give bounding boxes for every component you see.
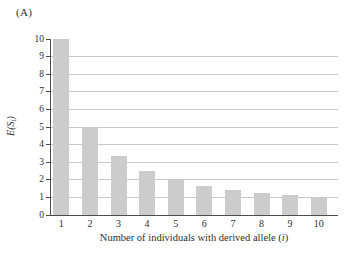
y-tick-7 — [46, 91, 50, 92]
y-tick-label-4: 4 — [22, 139, 44, 150]
y-tick-label-0: 0 — [22, 210, 44, 221]
bar-i1 — [53, 39, 69, 215]
gridline-y7 — [51, 91, 338, 92]
bar-i9 — [282, 195, 298, 215]
panel-label: (A) — [16, 6, 32, 18]
gridline-y9 — [51, 56, 338, 57]
y-tick-3 — [46, 162, 50, 163]
y-tick-label-3: 3 — [22, 157, 44, 168]
y-tick-8 — [46, 74, 50, 75]
bar-i3 — [111, 156, 127, 215]
plot-area: 01234567891012345678910 — [50, 39, 338, 215]
y-axis-title-pre: E(S — [5, 121, 16, 135]
x-tick-label-4: 4 — [133, 218, 161, 229]
y-axis-line — [50, 39, 51, 215]
x-tick-label-6: 6 — [190, 218, 218, 229]
y-tick-label-5: 5 — [22, 122, 44, 133]
y-tick-5 — [46, 127, 50, 128]
x-tick-label-9: 9 — [276, 218, 304, 229]
x-tick-label-2: 2 — [76, 218, 104, 229]
bar-i2 — [82, 127, 98, 215]
x-tick-label-8: 8 — [248, 218, 276, 229]
x-tick-label-10: 10 — [305, 218, 333, 229]
y-axis-title: E(Si) — [5, 116, 18, 136]
y-tick-0 — [46, 215, 50, 216]
x-axis-title-post: ) — [285, 232, 289, 243]
bar-i4 — [139, 171, 155, 215]
x-axis-title: Number of individuals with derived allel… — [50, 232, 338, 243]
y-tick-label-6: 6 — [22, 104, 44, 115]
bar-i8 — [254, 193, 270, 215]
bar-i5 — [168, 180, 184, 215]
y-tick-2 — [46, 179, 50, 180]
y-axis-title-sub: i — [9, 119, 18, 121]
bar-i7 — [225, 190, 241, 215]
x-tick-label-7: 7 — [219, 218, 247, 229]
y-tick-label-1: 1 — [22, 192, 44, 203]
gridline-y8 — [51, 74, 338, 75]
y-tick-10 — [46, 39, 50, 40]
figure-panel-a: (A) E(Si) 01234567891012345678910 Number… — [0, 0, 355, 257]
x-tick-label-5: 5 — [162, 218, 190, 229]
x-tick-label-3: 3 — [105, 218, 133, 229]
x-axis-title-pre: Number of individuals with derived allel… — [100, 232, 282, 243]
y-tick-1 — [46, 197, 50, 198]
y-tick-label-9: 9 — [22, 51, 44, 62]
bar-i6 — [196, 186, 212, 215]
y-tick-4 — [46, 144, 50, 145]
bar-i10 — [311, 197, 327, 215]
y-tick-label-10: 10 — [22, 34, 44, 45]
y-tick-9 — [46, 56, 50, 57]
y-axis-title-post: ) — [5, 116, 16, 119]
y-tick-6 — [46, 109, 50, 110]
x-tick-label-1: 1 — [47, 218, 75, 229]
y-tick-label-2: 2 — [22, 174, 44, 185]
x-axis-line — [50, 215, 338, 216]
y-tick-label-7: 7 — [22, 86, 44, 97]
y-tick-label-8: 8 — [22, 69, 44, 80]
gridline-y6 — [51, 109, 338, 110]
